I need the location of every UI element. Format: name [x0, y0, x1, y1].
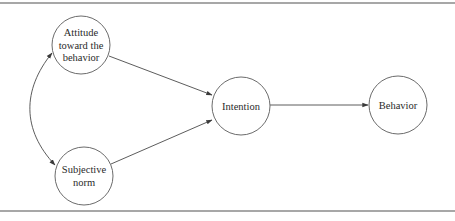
node-label: toward the: [59, 40, 104, 51]
node-label: Subjective: [62, 164, 107, 175]
node-label: Attitude: [64, 27, 99, 38]
node-label: behavior: [63, 52, 100, 63]
node-label: norm: [73, 177, 95, 188]
edge-norm-to-intention: [111, 120, 212, 164]
node-subjective-norm: Subjectivenorm: [55, 147, 113, 205]
node-attitude: Attitudetoward thebehavior: [52, 16, 110, 74]
edge-attitude-to-intention: [109, 56, 212, 95]
diagram-canvas: Attitudetoward thebehaviorSubjectivenorm…: [0, 0, 455, 221]
edge-attitude-norm-correlation: [30, 53, 55, 165]
node-label: Intention: [222, 101, 261, 112]
node-label: Behavior: [379, 100, 418, 111]
node-behavior: Behavior: [369, 76, 427, 134]
node-intention: Intention: [212, 77, 270, 135]
